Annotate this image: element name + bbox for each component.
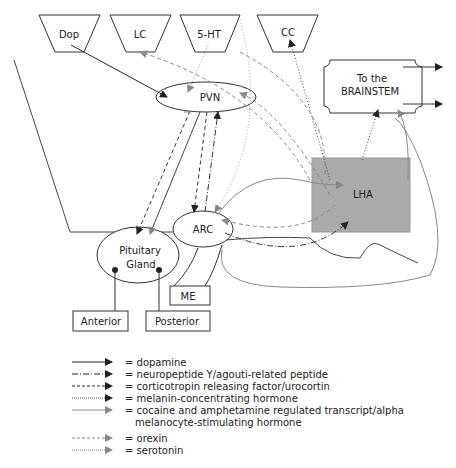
svg-text:Dop: Dop <box>59 29 79 40</box>
svg-text:melanocyte-stimulating hormone: melanocyte-stimulating hormone <box>135 417 302 428</box>
svg-text:= melanin-concentrating hormon: = melanin-concentrating hormone <box>125 393 298 404</box>
svg-text:BRAINSTEM: BRAINSTEM <box>341 86 399 97</box>
crf-pvn-to-arc <box>194 112 207 212</box>
svg-text:Pituitary: Pituitary <box>119 245 161 256</box>
svg-text:ME: ME <box>181 291 196 302</box>
svg-text:5-HT: 5-HT <box>197 29 221 40</box>
orexin-lha-outer <box>240 52 325 175</box>
orexin-to-lc <box>140 52 310 180</box>
svg-text:PVN: PVN <box>200 92 220 103</box>
node-dop: Dop <box>39 15 100 52</box>
legend: = dopamine = neuropeptide Y/agouti-relat… <box>72 357 404 456</box>
npy-arc-to-pvn <box>205 112 218 212</box>
node-arc: ARC <box>173 211 233 247</box>
svg-text:= serotonin: = serotonin <box>125 445 183 456</box>
svg-text:= corticotropin releasing fact: = corticotropin releasing factor/urocort… <box>125 381 330 392</box>
node-pituitary-gland: Pituitary Gland <box>97 227 179 283</box>
neuroendocrine-diagram: Dop LC 5-HT CC To the BRAINSTEM LHA PVN … <box>0 0 456 468</box>
node-5ht: 5-HT <box>180 15 240 52</box>
brain-outline <box>14 60 185 232</box>
svg-text:LHA: LHA <box>353 189 373 200</box>
svg-text:Anterior: Anterior <box>81 316 122 327</box>
svg-text:= neuropeptide Y/agouti-relate: = neuropeptide Y/agouti-related peptide <box>125 369 328 380</box>
svg-text:= cocaine and amphetamine regu: = cocaine and amphetamine regulated tran… <box>125 405 404 416</box>
node-lc: LC <box>110 15 171 52</box>
node-me: ME <box>170 286 210 305</box>
node-anterior: Anterior <box>73 311 128 331</box>
node-pvn: PVN <box>156 82 256 112</box>
svg-text:= dopamine: = dopamine <box>125 357 187 368</box>
svg-text:CC: CC <box>281 27 295 38</box>
svg-text:Gland: Gland <box>126 259 155 270</box>
svg-text:To the: To the <box>356 73 387 84</box>
node-posterior: Posterior <box>146 311 210 331</box>
mch-lha-to-brainstem <box>362 110 378 160</box>
node-brainstem: To the BRAINSTEM <box>324 60 422 113</box>
brain-outline-right <box>225 237 418 263</box>
svg-text:= orexin: = orexin <box>125 433 168 444</box>
node-lha: LHA <box>312 158 410 232</box>
svg-text:LC: LC <box>134 29 147 40</box>
node-cc: CC <box>257 15 318 52</box>
mch-lha-to-cc <box>290 40 330 180</box>
svg-text:ARC: ARC <box>193 224 213 235</box>
dopamine-dop-to-pvn <box>71 45 167 97</box>
svg-text:Posterior: Posterior <box>155 316 200 327</box>
